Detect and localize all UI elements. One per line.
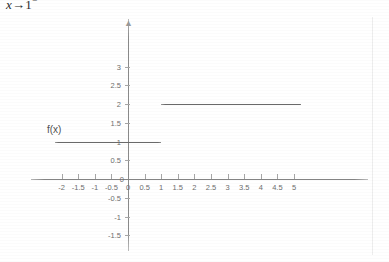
y-tick-label: 3 (117, 62, 121, 71)
y-tick-label: -1.5 (108, 231, 121, 240)
y-tick-label: -1 (114, 212, 121, 221)
function-label: f(x) (47, 124, 61, 135)
x-tick-label: 3.5 (239, 183, 249, 192)
x-tick-label: -2 (58, 183, 65, 192)
y-tick-mark (125, 217, 130, 218)
y-tick-label: 0 (120, 175, 124, 184)
x-tick-mark (261, 174, 262, 179)
limit-arrow-icon: → (12, 0, 25, 12)
y-tick-label: 2 (117, 100, 121, 109)
y-tick-mark (125, 104, 130, 105)
y-tick-mark (125, 160, 130, 161)
y-tick-label: 1.5 (111, 118, 121, 127)
x-tick-mark (145, 174, 146, 179)
x-tick-label: 0.5 (139, 183, 149, 192)
x-axis (31, 179, 368, 180)
x-tick-mark (244, 174, 245, 179)
x-tick-label: 3 (226, 183, 230, 192)
plot-area: ▲ -2-1.5-1-0.500.511.522.533.544.55 32.5… (31, 19, 368, 251)
x-tick-label: 0 (126, 183, 130, 192)
x-tick-label: 4 (259, 183, 263, 192)
x-tick-label: -1 (91, 183, 98, 192)
y-tick-label: 0.5 (111, 156, 121, 165)
x-tick-mark (62, 174, 63, 179)
limit-target: 1 (25, 0, 32, 12)
x-tick-mark (95, 174, 96, 179)
x-tick-mark (211, 174, 212, 179)
x-tick-mark (161, 174, 162, 179)
x-tick-label: 4.5 (272, 183, 282, 192)
x-tick-label: 2.5 (206, 183, 216, 192)
y-tick-mark (125, 123, 130, 124)
y-tick-label: -0.5 (108, 193, 121, 202)
function-segment-upper (161, 104, 300, 105)
y-tick-mark (125, 198, 130, 199)
y-tick-label: 2.5 (111, 81, 121, 90)
x-tick-mark (111, 174, 112, 179)
limit-caption: x→1− (6, 0, 37, 13)
x-tick-mark (294, 174, 295, 179)
x-tick-mark (78, 174, 79, 179)
y-tick-mark (125, 235, 130, 236)
limit-superscript: − (32, 0, 37, 5)
x-tick-mark (178, 174, 179, 179)
y-axis-arrow-icon: ▲ (124, 19, 133, 27)
x-tick-label: -0.5 (105, 183, 118, 192)
x-tick-label: 5 (292, 183, 296, 192)
x-tick-label: 2 (192, 183, 196, 192)
x-tick-mark (194, 174, 195, 179)
y-tick-mark (125, 85, 130, 86)
x-tick-label: 1 (159, 183, 163, 192)
y-tick-mark (125, 67, 130, 68)
x-tick-mark (277, 174, 278, 179)
x-tick-label: -1.5 (72, 183, 85, 192)
x-tick-mark (228, 174, 229, 179)
function-segment-lower (55, 142, 161, 143)
x-tick-label: 1.5 (173, 183, 183, 192)
